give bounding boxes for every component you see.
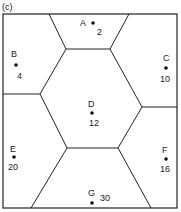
site-label: F xyxy=(162,145,168,155)
site-B: B 4 xyxy=(11,49,22,81)
site-A: A 2 xyxy=(80,18,102,37)
site-G: G 30 xyxy=(88,188,110,205)
site-F: F 16 xyxy=(160,145,170,174)
site-value: 30 xyxy=(100,193,110,203)
site-label: G xyxy=(88,188,95,198)
site-point xyxy=(12,155,16,159)
region-edges xyxy=(3,14,177,208)
site-value: 2 xyxy=(97,27,102,37)
site-value: 20 xyxy=(8,162,18,172)
site-label: C xyxy=(163,53,170,63)
site-point xyxy=(14,63,18,67)
site-value: 12 xyxy=(89,118,99,128)
site-label: E xyxy=(10,144,16,154)
site-label: D xyxy=(88,99,95,109)
site-label: B xyxy=(11,49,17,59)
site-D: D 12 xyxy=(88,99,99,128)
panel-label: (c) xyxy=(2,2,13,12)
site-E: E 20 xyxy=(8,144,18,172)
site-label: A xyxy=(80,18,86,28)
site-value: 4 xyxy=(17,71,22,81)
site-value: 16 xyxy=(160,164,170,174)
site-point xyxy=(91,21,95,25)
site-point xyxy=(164,157,168,161)
site-value: 10 xyxy=(160,74,170,84)
boundary-box xyxy=(3,14,177,208)
site-point xyxy=(164,66,168,70)
site-point xyxy=(90,201,94,205)
site-C: C 10 xyxy=(160,53,170,84)
site-point xyxy=(90,111,94,115)
voronoi-diagram: (c) A 2 B 4 C 10 D 12 E 20 F 16 G xyxy=(0,0,181,212)
